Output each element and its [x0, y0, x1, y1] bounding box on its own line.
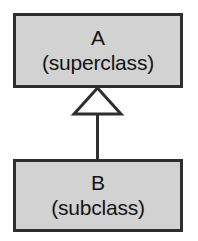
hollow-triangle-arrowhead-icon: [74, 88, 121, 114]
class-stereotype-b: (subclass): [51, 195, 145, 221]
class-box-superclass-a[interactable]: A (superclass): [13, 13, 183, 88]
class-name-b: B: [91, 171, 105, 195]
uml-class-diagram: A (superclass) B (subclass): [0, 0, 198, 241]
class-stereotype-a: (superclass): [42, 50, 154, 76]
class-box-subclass-b[interactable]: B (subclass): [13, 159, 183, 232]
class-name-a: A: [91, 26, 105, 50]
